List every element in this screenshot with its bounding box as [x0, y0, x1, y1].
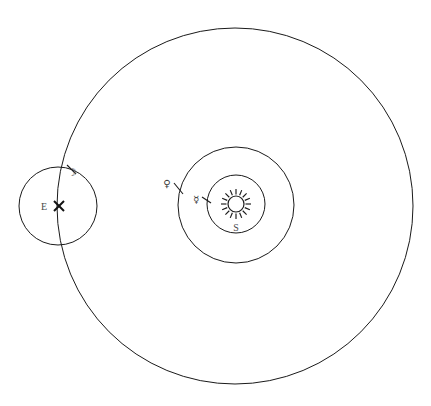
- sun-ray: [225, 193, 229, 197]
- solar-orbit-circle: [57, 28, 413, 384]
- sun-ray: [240, 213, 242, 218]
- sun-disc: [228, 196, 244, 212]
- mercury-symbol-icon: ☿: [193, 194, 199, 205]
- sun-ray: [243, 211, 247, 215]
- sun-ray: [245, 208, 250, 210]
- venus-symbol-icon: ♀: [163, 178, 170, 189]
- sun-label: S: [233, 222, 239, 233]
- venus-orbit-circle: [178, 147, 294, 263]
- astronomy-diagram: ♀☿☽ S E: [0, 0, 431, 406]
- sun-ray: [222, 198, 227, 200]
- sun-ray: [225, 211, 229, 215]
- sun-ray: [245, 198, 250, 200]
- earth-label: E: [41, 201, 47, 212]
- earth-marker-icon: [54, 201, 64, 211]
- sun-ray: [230, 213, 232, 218]
- moon-symbol-icon: ☽: [67, 166, 77, 179]
- diagram-canvas: ♀☿☽ S E: [0, 0, 431, 406]
- sun-ray: [240, 190, 242, 195]
- sun-rays: [221, 189, 251, 219]
- planet-symbol-glyphs: ♀☿☽: [67, 166, 199, 205]
- sun-ray: [222, 208, 227, 210]
- sun-icon: [221, 189, 251, 219]
- sun-ray: [243, 193, 247, 197]
- sun-ray: [230, 190, 232, 195]
- mercury-tick-mark: [202, 197, 211, 203]
